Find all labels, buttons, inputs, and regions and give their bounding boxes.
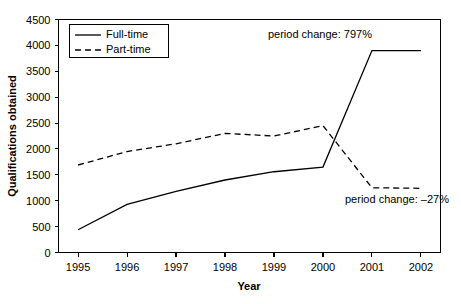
- y-axis: 050010001500200025003000350040004500: [26, 14, 58, 259]
- annotation-part-time-period-change: period change: –27%: [345, 193, 449, 205]
- chart-svg: 050010001500200025003000350040004500 199…: [0, 0, 461, 304]
- x-tick-label: 2002: [409, 261, 433, 273]
- y-tick-label: 2000: [26, 143, 50, 155]
- x-axis-title: Year: [237, 280, 261, 292]
- y-tick-label: 2500: [26, 117, 50, 129]
- y-tick-label: 3000: [26, 91, 50, 103]
- y-tick-label: 500: [32, 221, 50, 233]
- y-axis-title: Qualifications obtained: [6, 75, 18, 197]
- series-line-part-time: [78, 126, 421, 189]
- legend-label-full-time: Full-time: [106, 28, 148, 40]
- y-tick-label: 4500: [26, 14, 50, 26]
- x-tick-label: 1996: [115, 261, 139, 273]
- x-tick-label: 2001: [360, 261, 384, 273]
- annotations-group: period change: 797%period change: –27%: [268, 28, 449, 205]
- x-tick-label: 1998: [213, 261, 237, 273]
- line-chart-figure: 050010001500200025003000350040004500 199…: [0, 0, 461, 304]
- y-tick-label: 1000: [26, 195, 50, 207]
- annotation-full-time-period-change: period change: 797%: [268, 28, 372, 40]
- x-tick-label: 1999: [262, 261, 286, 273]
- x-tick-label: 1995: [66, 261, 90, 273]
- x-axis: 19951996199719981999200020012002: [66, 253, 433, 273]
- legend-label-part-time: Part-time: [106, 43, 151, 55]
- x-tick-label: 2000: [311, 261, 335, 273]
- x-tick-label: 1997: [164, 261, 188, 273]
- y-tick-label: 0: [44, 247, 50, 259]
- chart-legend: Full-timePart-time: [70, 25, 169, 58]
- y-tick-label: 3500: [26, 65, 50, 77]
- y-tick-label: 4000: [26, 39, 50, 51]
- y-tick-label: 1500: [26, 169, 50, 181]
